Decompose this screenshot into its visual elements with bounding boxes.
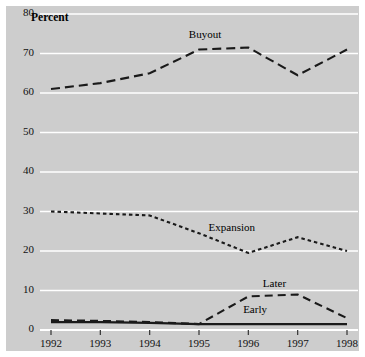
series-annotation-early: Early xyxy=(243,303,267,315)
x-axis-label-1998: 1998 xyxy=(324,337,365,349)
y-axis-label-0: 0 xyxy=(12,322,34,334)
series-annotation-buyout: Buyout xyxy=(189,28,221,40)
y-axis-label-30: 30 xyxy=(12,204,34,216)
y-axis-label-20: 20 xyxy=(12,243,34,255)
x-axis-label-1996: 1996 xyxy=(225,337,271,349)
series-annotation-later: Later xyxy=(263,277,286,289)
chart-container: Percent 01020304050607080199219931994199… xyxy=(0,0,365,357)
y-axis-label-60: 60 xyxy=(12,85,34,97)
chart-svg xyxy=(0,0,365,357)
y-axis-label-70: 70 xyxy=(12,46,34,58)
series-line-expansion xyxy=(51,212,347,253)
series-annotation-expansion: Expansion xyxy=(209,221,255,233)
x-axis-label-1994: 1994 xyxy=(127,337,173,349)
series-line-later xyxy=(51,294,347,324)
y-axis-title: Percent xyxy=(31,11,68,23)
y-axis-label-50: 50 xyxy=(12,125,34,137)
y-axis-label-10: 10 xyxy=(12,283,34,295)
y-axis-label-40: 40 xyxy=(12,164,34,176)
x-axis-label-1997: 1997 xyxy=(275,337,321,349)
x-axis-label-1992: 1992 xyxy=(28,337,74,349)
x-axis-label-1993: 1993 xyxy=(77,337,123,349)
x-axis-label-1995: 1995 xyxy=(176,337,222,349)
series-line-early xyxy=(51,322,347,324)
